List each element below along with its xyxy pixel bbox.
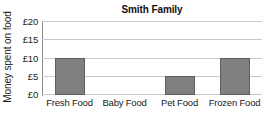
y-axis-tick-labels: £0£5£10£15£20 [14, 0, 40, 119]
gridline [42, 39, 262, 40]
x-tick-label: Fresh Food [42, 97, 97, 108]
x-tick-label: Baby Food [97, 97, 152, 108]
bar [220, 58, 250, 96]
gridline [42, 21, 262, 22]
chart-title: Smith Family [42, 4, 262, 16]
y-tick-label: £15 [12, 35, 38, 45]
x-tick-label: Frozen Food [207, 97, 262, 108]
plot-area [42, 22, 262, 95]
y-tick-label: £5 [12, 72, 38, 82]
bar [165, 76, 195, 95]
bar-chart: Money spent on food Smith Family £0£5£10… [0, 0, 264, 119]
y-axis-line [42, 22, 43, 96]
y-tick-label: £10 [12, 54, 38, 64]
y-tick-label: £20 [12, 17, 38, 27]
x-tick-label: Pet Food [152, 97, 207, 108]
y-tick-label: £0 [12, 90, 38, 100]
x-axis-tick-labels: Fresh FoodBaby FoodPet FoodFrozen Food [42, 97, 264, 113]
bar [55, 58, 85, 96]
